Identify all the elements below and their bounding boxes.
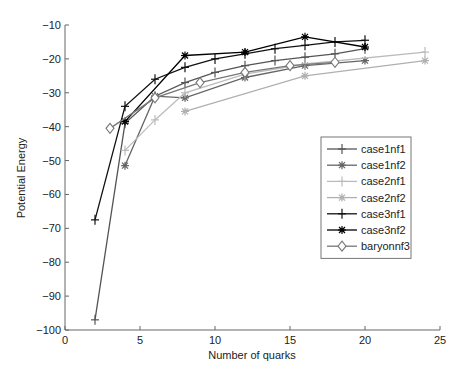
legend-label: baryonnf3: [361, 240, 410, 252]
x-tick-label: 25: [434, 334, 446, 346]
y-axis-label: Potential Energy: [15, 137, 27, 218]
legend-label: case2nf2: [361, 192, 406, 204]
x-tick-label: 5: [137, 334, 143, 346]
y-tick-label: −40: [42, 121, 61, 133]
y-tick-label: −20: [42, 53, 61, 65]
y-tick-label: −60: [42, 188, 61, 200]
y-tick-label: −10: [42, 19, 61, 31]
legend-label: case1nf1: [361, 143, 406, 155]
legend: case1nf1case1nf2case2nf1case2nf2case3nf1…: [321, 137, 411, 258]
legend-label: case2nf1: [361, 175, 406, 187]
x-tick-label: 10: [209, 334, 221, 346]
y-tick-label: −50: [42, 155, 61, 167]
series-baryonnf3: [106, 57, 339, 133]
x-tick-label: 20: [359, 334, 371, 346]
x-tick-label: 15: [284, 334, 296, 346]
y-tick-label: −90: [42, 290, 61, 302]
legend-label: case3nf2: [361, 224, 406, 236]
x-axis-label: Number of quarks: [208, 349, 296, 361]
y-tick-label: −80: [42, 256, 61, 268]
line-chart: 0510152025−10−20−30−40−50−60−70−80−90−10…: [0, 0, 462, 375]
y-tick-label: −100: [36, 324, 61, 336]
legend-label: case3nf1: [361, 208, 406, 220]
x-tick-label: 0: [62, 334, 68, 346]
y-tick-label: −30: [42, 87, 61, 99]
y-tick-label: −70: [42, 222, 61, 234]
legend-label: case1nf2: [361, 159, 406, 171]
